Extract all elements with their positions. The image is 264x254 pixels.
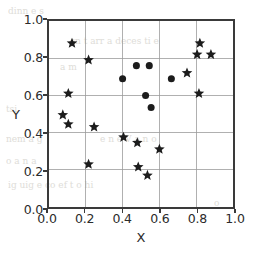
data-point-star xyxy=(57,109,68,119)
x-axis-label: X xyxy=(137,230,146,245)
data-point-star xyxy=(142,170,153,180)
data-point-star xyxy=(192,49,203,59)
data-point-star xyxy=(89,121,100,131)
plot-area xyxy=(47,19,235,209)
y-tick-label: 0.2 xyxy=(24,164,43,179)
data-point-circle xyxy=(168,75,175,82)
data-point-star xyxy=(63,88,74,98)
y-axis-label: Y xyxy=(12,107,20,122)
y-tick-label: 1.0 xyxy=(24,12,43,27)
data-point-circle xyxy=(119,75,126,82)
data-point-star xyxy=(63,119,74,129)
y-tick-label: 0.0 xyxy=(24,202,43,217)
data-point-star xyxy=(132,137,143,147)
data-point-star xyxy=(195,38,206,48)
data-point-circle xyxy=(142,92,149,99)
data-point-star xyxy=(83,159,94,169)
data-point-star xyxy=(67,38,78,48)
x-tick-label: 0.6 xyxy=(150,211,169,226)
data-point-star xyxy=(83,54,94,64)
x-tick-label: 0.2 xyxy=(75,211,94,226)
data-point-star xyxy=(194,88,205,98)
y-tick-label: 0.4 xyxy=(24,126,43,141)
data-point-star xyxy=(182,68,193,78)
data-point-circle xyxy=(133,62,140,69)
data-point-star xyxy=(118,132,129,142)
x-tick-label: 0.8 xyxy=(188,211,207,226)
x-tick-label: 1.0 xyxy=(225,211,244,226)
y-tick-label: 0.6 xyxy=(24,88,43,103)
data-points-layer xyxy=(49,21,233,207)
x-tick-label: 0.4 xyxy=(113,211,132,226)
data-point-star xyxy=(206,49,217,59)
data-point-star xyxy=(154,144,165,154)
data-point-circle xyxy=(148,104,155,111)
y-tick-label: 0.8 xyxy=(24,50,43,65)
data-point-star xyxy=(133,161,144,171)
scatter-plot-figure: dinn e scn t arr a deces ti ea mtsinem a… xyxy=(0,0,264,254)
data-point-circle xyxy=(146,62,153,69)
